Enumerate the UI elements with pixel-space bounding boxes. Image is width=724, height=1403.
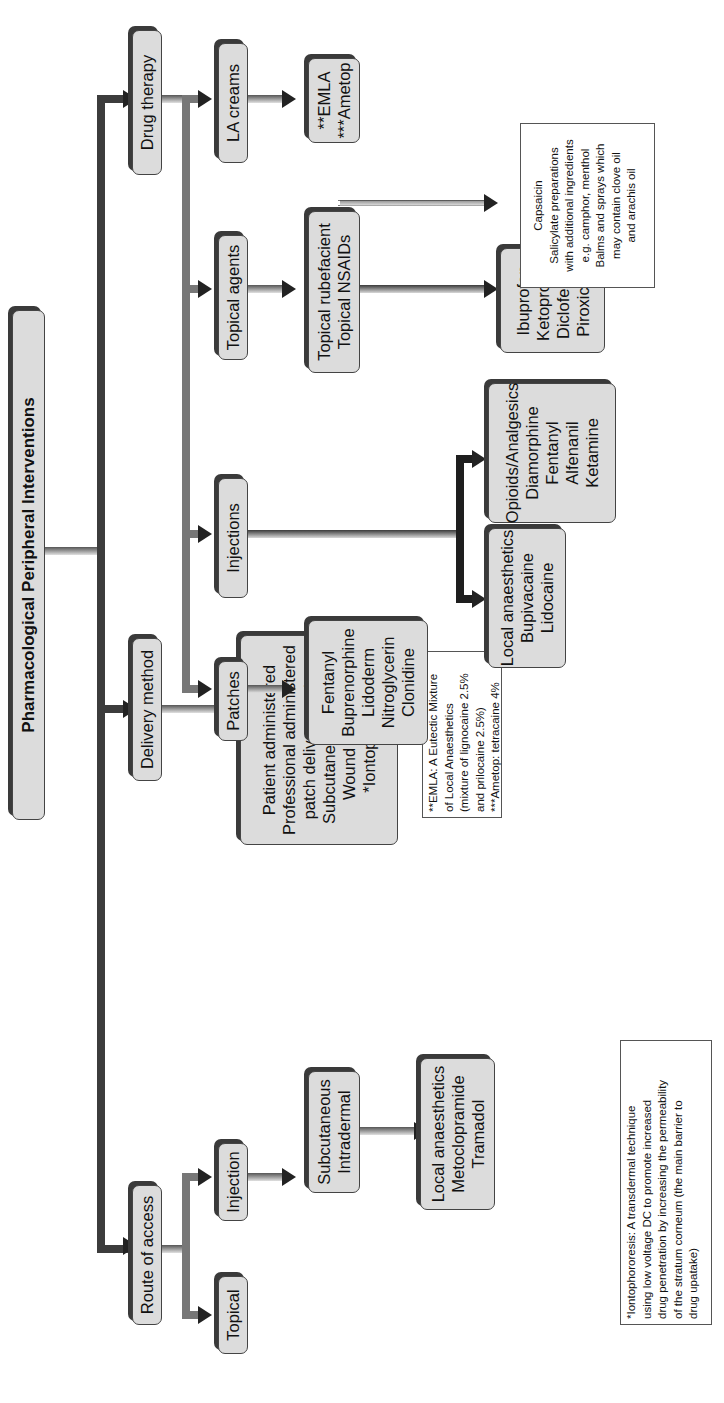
emla-footnote: **EMLA: A Eutectic Mixture of Local Anae… xyxy=(422,651,502,818)
iontophoresis-footnote: *Iontophororesis: A transdermal techniqu… xyxy=(620,1040,712,1325)
arrow-icon xyxy=(282,90,296,108)
main-trunk xyxy=(97,103,105,1253)
arrow-icon xyxy=(282,680,296,698)
delivery-method-box: Delivery method xyxy=(132,638,162,781)
arrow-icon xyxy=(282,1168,296,1186)
injections-connector xyxy=(248,530,456,538)
route-split xyxy=(182,1173,190,1319)
injections-box: Injections xyxy=(218,478,248,598)
title-connector xyxy=(45,547,97,555)
topical-box: Topical xyxy=(218,1276,248,1354)
arrow-icon xyxy=(484,194,498,212)
injection-types-box: Subcutaneous Intradermal xyxy=(308,1071,360,1193)
nsaids-connector xyxy=(360,285,492,293)
arrow-icon xyxy=(198,1168,212,1186)
arrow-icon xyxy=(282,280,296,298)
la-creams-box: LA creams xyxy=(218,43,248,163)
arrow-icon xyxy=(198,525,212,543)
arrow-icon xyxy=(198,280,212,298)
injection-box: Injection xyxy=(218,1143,248,1221)
la-creams-items-box: **EMLA ***Ametop xyxy=(308,58,360,143)
arrow-icon xyxy=(484,280,498,298)
patches-items-box: Fentanyl Buprenorphine Lidoderm Nitrogly… xyxy=(308,620,428,745)
arrow-icon xyxy=(198,90,212,108)
arrow-icon xyxy=(198,1306,212,1324)
arrow-icon xyxy=(472,450,486,468)
injection-drugs-box: Local anaesthetics Metoclopramide Tramad… xyxy=(420,1058,495,1210)
local-anaesthetics-box: Local anaesthetics Bupivacaine Lidocaine xyxy=(488,528,566,668)
title-box: Pharmacological Peripheral Interventions xyxy=(12,310,45,820)
diagram-canvas: Pharmacological Peripheral Interventions… xyxy=(0,0,724,1403)
topical-agents-box: Topical agents xyxy=(218,235,248,360)
patches-box: Patches xyxy=(218,661,248,741)
injections-split xyxy=(456,455,464,603)
route-connector xyxy=(162,1245,182,1253)
delivery-connector xyxy=(162,705,222,713)
opioids-box: Opioids/Analgesics Diamorphine Fentanyl … xyxy=(488,383,616,523)
rubefacient-shade xyxy=(340,200,492,206)
drug-therapy-split xyxy=(182,95,190,693)
injection-types-connector xyxy=(360,1127,422,1135)
route-of-access-box: Route of access xyxy=(132,1185,162,1325)
topical-sub-box: Topical rubefacient Topical NSAIDs xyxy=(308,211,360,373)
drug-therapy-connector xyxy=(162,95,182,103)
drug-therapy-box: Drug therapy xyxy=(132,30,162,175)
diagram-title: Pharmacological Peripheral Interventions xyxy=(19,397,39,732)
rubefacient-note: Capsaicin Salicylate preparations with a… xyxy=(520,123,655,288)
arrow-icon xyxy=(472,590,486,608)
arrow-icon xyxy=(198,680,212,698)
